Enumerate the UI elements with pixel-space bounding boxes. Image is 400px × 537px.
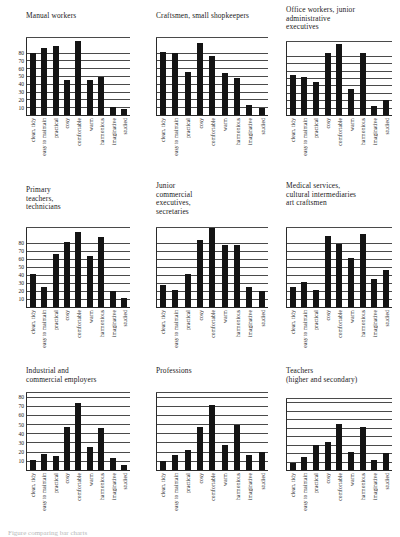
bar: [197, 240, 203, 307]
bar-series: [157, 393, 268, 470]
bar: [197, 43, 203, 115]
bar: [301, 77, 307, 115]
bar: [30, 274, 36, 307]
bar: [348, 89, 354, 115]
bar-series: [27, 393, 130, 470]
x-axis-tick-label: practical: [53, 310, 59, 330]
bar: [313, 290, 319, 307]
x-axis-tick-label: comfortable: [210, 473, 216, 501]
bar: [185, 274, 191, 307]
bar: [301, 282, 307, 307]
x-axis-tick-label: comfortable: [337, 118, 343, 146]
chart-panel: Teachers (higher and secondary)clean, ti…: [280, 355, 400, 522]
y-axis-tick-label: 80: [18, 51, 24, 57]
bar: [360, 53, 366, 115]
x-axis-tick-label: easy to maintain: [173, 310, 179, 348]
bar: [41, 48, 47, 115]
bar: [313, 82, 319, 115]
x-axis-tick-label: studied: [384, 310, 390, 327]
x-axis-tick-label: easy to maintain: [173, 118, 179, 156]
x-axis-tick-label: cosy: [198, 310, 204, 320]
x-axis-line: [156, 470, 268, 471]
x-axis-tick-label: imaginative: [372, 118, 378, 145]
bar: [325, 442, 331, 470]
x-axis-tick-label: warm: [88, 310, 94, 323]
bar: [371, 279, 377, 307]
y-axis-tick-label: 50: [18, 265, 24, 271]
x-axis-labels: clean, tidyeasy to maintainpracticalcosy…: [27, 310, 131, 348]
x-axis-tick-label: practical: [185, 310, 191, 330]
x-axis-tick-label: easy to maintain: [41, 310, 47, 348]
y-axis-tick-label: 20: [18, 450, 24, 456]
chart-panel: Manual workers1020304050607080clean, tid…: [0, 0, 140, 172]
y-axis-tick-label: 80: [18, 241, 24, 247]
bar: [172, 290, 178, 307]
bar-series: [27, 38, 130, 115]
chart-title: Teachers (higher and secondary): [286, 367, 357, 384]
y-axis-tick-label: 30: [18, 441, 24, 447]
x-axis-tick-label: warm: [349, 473, 355, 486]
bar-series: [157, 228, 268, 307]
chart-panel: Professionsclean, tidyeasy to maintainpr…: [140, 355, 280, 522]
bar: [301, 457, 307, 470]
bar: [290, 463, 296, 470]
bar: [75, 41, 81, 115]
x-axis-line: [156, 307, 268, 308]
bar: [75, 403, 81, 470]
bar: [348, 452, 354, 470]
chart-panel: Office workers, junior administrative ex…: [280, 0, 400, 172]
chart-title: Junior commercial executives, secretarie…: [156, 182, 192, 216]
bar: [185, 72, 191, 115]
bar: [325, 53, 331, 115]
bar-series: [27, 228, 130, 307]
y-axis-tick-label: 20: [18, 98, 24, 104]
bar: [160, 461, 166, 470]
x-axis-tick-label: cosy: [64, 473, 70, 483]
x-axis-tick-label: practical: [185, 473, 191, 493]
y-axis-tick-label: 70: [18, 404, 24, 410]
bar: [383, 100, 389, 115]
x-axis-tick-label: cosy: [198, 473, 204, 483]
x-axis-tick-label: clean, tidy: [160, 310, 166, 334]
bar: [222, 445, 228, 470]
x-axis-tick-label: cosy: [64, 118, 70, 128]
bar: [110, 458, 116, 470]
bar: [360, 234, 366, 307]
x-axis-tick-label: cosy: [64, 310, 70, 320]
x-axis-tick-label: harmonious: [235, 473, 241, 500]
x-axis-tick-label: imaginative: [372, 473, 378, 500]
x-axis-tick-label: imaginative: [111, 118, 117, 145]
bar: [371, 106, 377, 115]
x-axis-tick-label: studied: [260, 310, 266, 327]
y-axis-tick-label: 10: [18, 459, 24, 465]
chart-panel: Junior commercial executives, secretarie…: [140, 172, 280, 355]
bar: [160, 285, 166, 307]
bar: [259, 452, 265, 470]
y-axis-tick-label: 70: [18, 59, 24, 65]
y-axis-tick-label: 80: [18, 395, 24, 401]
x-axis-line: [286, 307, 392, 308]
bar: [30, 53, 36, 115]
chart-title: Medical services, cultural intermediarie…: [286, 182, 356, 208]
bar: [325, 236, 331, 307]
bar: [87, 80, 93, 115]
chart-panel: Industrial and commercial employers10203…: [0, 355, 140, 522]
x-axis-tick-label: comfortable: [337, 473, 343, 501]
chart-title: Office workers, junior administrative ex…: [286, 6, 355, 32]
x-axis-tick-label: harmonious: [360, 310, 366, 337]
x-axis-tick-label: harmonious: [99, 118, 105, 145]
y-axis-tick-label: 10: [18, 297, 24, 303]
bar: [41, 287, 47, 307]
x-axis-tick-label: easy to maintain: [302, 310, 308, 348]
x-axis-tick-label: easy to maintain: [41, 118, 47, 156]
bar-series: [287, 399, 392, 470]
bar: [259, 108, 265, 115]
plot-area: [156, 228, 268, 308]
bar: [121, 109, 127, 115]
x-axis-tick-label: practical: [313, 473, 319, 493]
bar: [98, 77, 104, 116]
y-axis-tick-label: 50: [18, 74, 24, 80]
bar-series: [287, 228, 392, 307]
y-axis-tick-label: 30: [18, 281, 24, 287]
x-axis-tick-label: studied: [384, 473, 390, 490]
